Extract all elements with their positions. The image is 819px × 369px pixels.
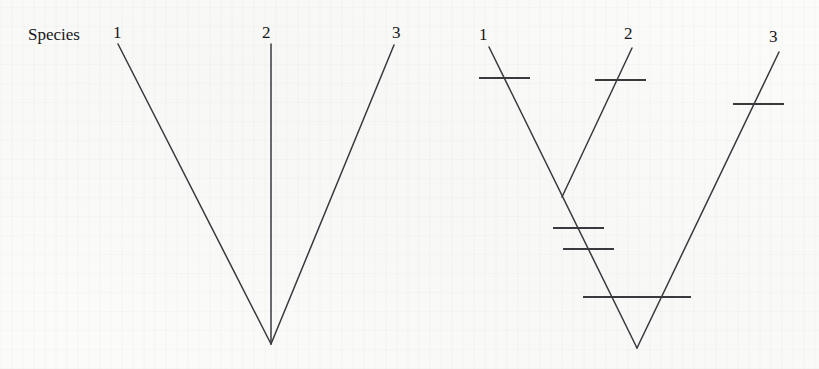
right-tree-tip-label-1: 1 xyxy=(479,26,488,43)
left-tree-tip-label-3: 3 xyxy=(392,24,401,41)
left-tree-branch-1 xyxy=(118,44,271,344)
left-tree xyxy=(118,44,394,344)
species-caption: Species xyxy=(28,26,80,43)
right-tree xyxy=(479,47,784,348)
right-tree-tip-label-3: 3 xyxy=(769,28,778,45)
right-tree-tip-label-2: 2 xyxy=(624,25,633,42)
right-tree-branch-1 xyxy=(489,47,637,348)
right-tree-branch-2 xyxy=(562,48,632,197)
figure-canvas: Species 1 2 3 1 2 3 xyxy=(0,0,819,369)
mutation-tick-marks xyxy=(479,78,784,297)
right-tree-branch-3 xyxy=(637,52,779,348)
left-tree-branch-3 xyxy=(271,45,394,344)
left-tree-tip-label-2: 2 xyxy=(262,24,271,41)
tree-diagram-svg xyxy=(0,0,819,369)
left-tree-tip-label-1: 1 xyxy=(113,24,122,41)
